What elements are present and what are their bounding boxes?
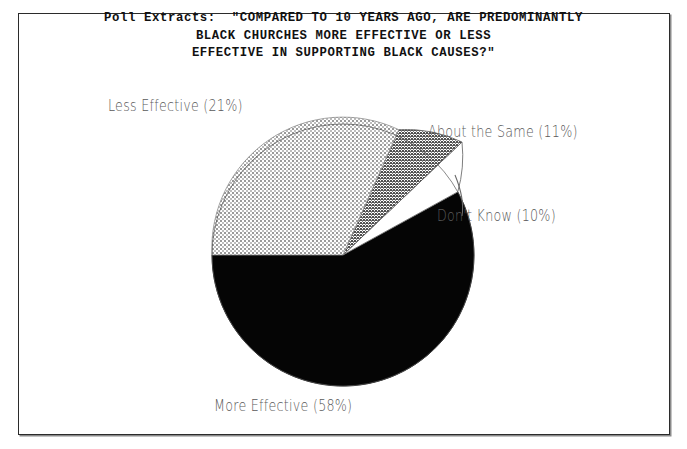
chart-title-line-2: BLACK CHURCHES MORE EFFECTIVE OR LESS: [196, 29, 491, 43]
pie-label-less-effective: Less Effective (21%): [108, 97, 243, 115]
chart-title-line-3: EFFECTIVE IN SUPPORTING BLACK CAUSES?": [192, 46, 495, 60]
pie-label-more-effective: More Effective (58%): [214, 397, 352, 415]
pie-label-about-the-same: About the Same (11%): [428, 123, 578, 141]
pie-label-dont-know: Don't Know (10%): [437, 207, 556, 225]
chart-frame-border: [18, 13, 670, 435]
chart-title-line-1: Poll Extracts: "COMPARED TO 10 YEARS AGO…: [104, 11, 583, 25]
poll-chart-figure: Poll Extracts: "COMPARED TO 10 YEARS AGO…: [0, 0, 687, 449]
chart-title: Poll Extracts: "COMPARED TO 10 YEARS AGO…: [0, 10, 687, 63]
